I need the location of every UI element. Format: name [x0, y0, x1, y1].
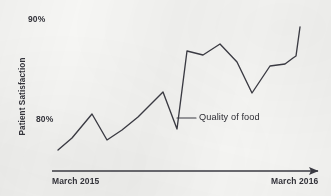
data-series-line	[58, 27, 300, 150]
x-axis-start-label: March 2015	[52, 176, 99, 186]
chart-canvas: 90% 80% Patient Satisfaction March 2015 …	[0, 0, 331, 196]
y-axis-title: Patient Satisfaction	[18, 49, 27, 145]
y-axis-tick-label-80: 80%	[36, 114, 53, 124]
series-annotation-label: Quality of food	[199, 112, 260, 122]
y-axis-tick-label-90: 90%	[28, 14, 45, 24]
x-axis-end-label: March 2016	[271, 176, 318, 186]
line-chart-graphic	[0, 0, 331, 196]
